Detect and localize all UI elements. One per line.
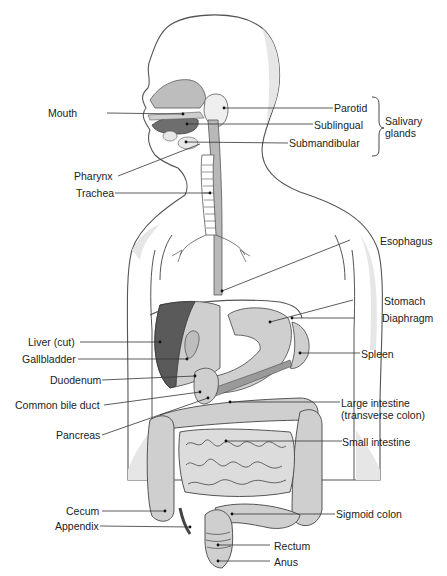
digestive-system-diagram <box>0 0 447 576</box>
label-pancreas: Pancreas <box>56 429 100 441</box>
appendix <box>180 508 190 534</box>
label-large-intestine-sub: (transverse colon) <box>341 409 425 421</box>
label-sublingual: Sublingual <box>314 119 363 131</box>
submandibular-gland <box>178 137 198 149</box>
label-esophagus: Esophagus <box>380 235 433 247</box>
label-mouth: Mouth <box>48 107 77 119</box>
label-parotid: Parotid <box>334 102 367 114</box>
label-small-intestine: Small intestine <box>342 436 410 448</box>
label-salivary-glands-1: Salivary <box>385 115 422 127</box>
label-submandibular: Submandibular <box>289 137 360 149</box>
label-anus: Anus <box>274 556 298 568</box>
label-pharynx: Pharynx <box>74 170 113 182</box>
label-salivary-glands-2: glands <box>385 127 416 139</box>
label-stomach: Stomach <box>384 295 425 307</box>
label-sigmoid-colon: Sigmoid colon <box>336 508 402 520</box>
salivary-glands-brace <box>372 97 384 156</box>
label-trachea: Trachea <box>76 187 114 199</box>
label-large-intestine: Large intestine <box>341 397 410 409</box>
label-spleen: Spleen <box>361 348 394 360</box>
label-appendix: Appendix <box>55 520 99 532</box>
sublingual-gland <box>163 131 177 141</box>
label-gallbladder: Gallbladder <box>22 353 76 365</box>
label-diaphragm: Diaphragm <box>382 312 433 324</box>
label-duodenum: Duodenum <box>50 374 101 386</box>
label-liver: Liver (cut) <box>28 336 75 348</box>
label-rectum: Rectum <box>274 540 310 552</box>
label-common-bile-duct: Common bile duct <box>15 399 100 411</box>
label-cecum: Cecum <box>66 505 99 517</box>
